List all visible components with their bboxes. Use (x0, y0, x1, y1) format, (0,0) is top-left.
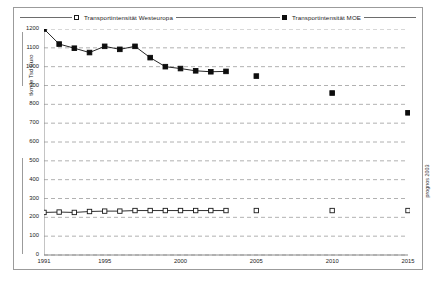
y-tick-label: 500 (14, 157, 39, 163)
y-axis-title-rule-bottom (22, 158, 23, 254)
data-point-marker (102, 44, 107, 49)
y-tick-label: 200 (14, 213, 39, 219)
y-tick-label: 900 (14, 82, 39, 88)
forecast-point-marker (254, 208, 258, 212)
y-tick-label: 600 (14, 138, 39, 144)
data-point-marker (178, 208, 182, 212)
y-tick-label: 1000 (14, 63, 39, 69)
legend-rule-left (228, 17, 280, 18)
y-axis-title-rule-top (22, 32, 23, 86)
data-point-marker (178, 66, 183, 71)
data-point-marker (224, 69, 229, 74)
forecast-point-marker (406, 111, 410, 116)
y-tick-label: 1100 (14, 44, 39, 50)
data-point-marker (133, 44, 138, 49)
open-square-icon (72, 15, 81, 20)
legend-label-westeuropa: Transportintensität Westeuropa (81, 14, 176, 21)
y-tick-label: 0 (14, 251, 39, 257)
y-tick-label: 400 (14, 176, 39, 182)
data-point-marker (148, 208, 152, 212)
plot-svg (44, 29, 410, 256)
data-point-marker (72, 46, 77, 51)
data-point-marker (163, 208, 167, 212)
legend-rule-right (364, 17, 416, 18)
data-point-marker (44, 29, 46, 31)
data-point-marker (44, 210, 46, 214)
data-point-marker (87, 209, 91, 213)
data-point-marker (163, 64, 168, 69)
data-point-marker (118, 47, 123, 52)
forecast-point-marker (330, 208, 334, 212)
data-point-marker (148, 55, 153, 60)
y-tick-label: 800 (14, 100, 39, 106)
plot-area (44, 29, 410, 256)
x-tick-label: 2005 (242, 258, 270, 264)
y-tick-label: 700 (14, 119, 39, 125)
x-tick-label: 1995 (91, 258, 119, 264)
data-point-marker (209, 208, 213, 212)
x-tick-label: 2010 (318, 258, 346, 264)
source-note: prognos 2003 (424, 151, 430, 211)
data-point-marker (87, 50, 92, 55)
data-point-marker (57, 42, 62, 47)
data-point-marker (102, 209, 106, 213)
data-point-marker (133, 208, 137, 212)
legend-entry-westeuropa: Transportintensität Westeuropa (20, 14, 228, 21)
filled-square-icon (280, 15, 289, 20)
x-tick-label: 2015 (394, 258, 422, 264)
y-tick-label: 100 (14, 232, 39, 238)
legend-rule-left (20, 17, 72, 18)
y-tick-label: 1200 (14, 25, 39, 31)
series-line-1 (44, 29, 226, 72)
forecast-point-marker (254, 74, 259, 79)
data-point-marker (72, 210, 76, 214)
forecast-point-marker (406, 208, 410, 212)
data-point-marker (57, 210, 61, 214)
data-point-marker (224, 208, 228, 212)
data-point-marker (193, 208, 197, 212)
chart-legend: Transportintensität Westeuropa Transport… (20, 10, 416, 24)
legend-entry-moe: Transportintensität MOE (228, 14, 416, 21)
x-tick-label: 1991 (30, 258, 58, 264)
data-point-marker (118, 209, 122, 213)
legend-label-moe: Transportintensität MOE (289, 14, 364, 21)
data-point-marker (193, 69, 198, 74)
x-tick-label: 2000 (167, 258, 195, 264)
chart-container: Transportintensität Westeuropa Transport… (0, 0, 435, 287)
data-point-marker (209, 69, 214, 74)
forecast-point-marker (330, 91, 335, 96)
legend-rule-right (176, 17, 228, 18)
y-tick-label: 300 (14, 195, 39, 201)
